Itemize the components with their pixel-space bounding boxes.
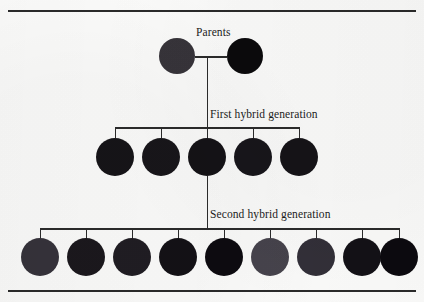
f2-bracket-line bbox=[40, 228, 399, 230]
f1-bracket-tick bbox=[115, 127, 117, 138]
organism-circle-f2-2 bbox=[67, 238, 105, 276]
organism-circle-f1-5 bbox=[280, 138, 318, 176]
organism-circle-f1-2 bbox=[142, 138, 180, 176]
organism-circle-parents-1 bbox=[159, 38, 195, 74]
organism-circle-f2-6 bbox=[251, 238, 289, 276]
organism-circle-f2-9 bbox=[380, 238, 418, 276]
organism-circle-parents-2 bbox=[227, 38, 263, 74]
organism-circle-f1-4 bbox=[234, 138, 272, 176]
f1-bracket-tick bbox=[253, 127, 255, 138]
f1-to-f2-line bbox=[207, 176, 209, 228]
f1-bracket-tick bbox=[299, 127, 301, 138]
parents-to-f1-line bbox=[207, 56, 209, 127]
organism-circle-f2-1 bbox=[21, 238, 59, 276]
f1-bracket-tick bbox=[161, 127, 163, 138]
organism-circle-f2-4 bbox=[159, 238, 197, 276]
f1-bracket-tick bbox=[207, 127, 209, 138]
bottom-rule bbox=[8, 290, 416, 292]
organism-circle-f2-7 bbox=[297, 238, 335, 276]
organism-circle-f1-1 bbox=[96, 138, 134, 176]
organism-circle-f2-3 bbox=[113, 238, 151, 276]
parents-label: Parents bbox=[196, 26, 231, 38]
top-rule bbox=[8, 10, 416, 12]
organism-circle-f1-3 bbox=[188, 138, 226, 176]
organism-circle-f2-8 bbox=[343, 238, 381, 276]
second-generation-label: Second hybrid generation bbox=[210, 208, 331, 220]
first-generation-label: First hybrid generation bbox=[210, 108, 318, 120]
pedigree-figure: Parents First hybrid generation Second h… bbox=[0, 0, 424, 302]
organism-circle-f2-5 bbox=[205, 238, 243, 276]
parents-link-line bbox=[195, 56, 227, 58]
